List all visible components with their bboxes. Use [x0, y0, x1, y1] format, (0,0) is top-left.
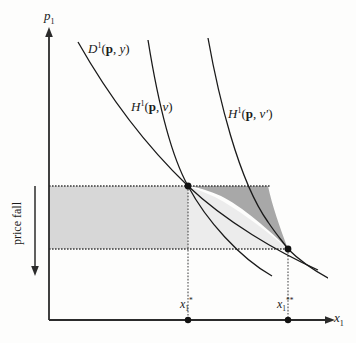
- tick-label-x-star: x1*: [180, 296, 193, 313]
- price-fall-diagram: [0, 0, 356, 343]
- curve-label-hicksian-v: H1(p, v): [131, 99, 173, 115]
- tick-x-dstar-sup: **: [286, 296, 293, 305]
- tick-x-star-sup: *: [189, 296, 193, 305]
- axis-dot-x-star: [185, 317, 191, 323]
- x-axis-label-sub: 1: [340, 319, 344, 328]
- curve-label-h1-boldp: p: [149, 99, 156, 114]
- curve-label-hicksian-v-prime: H1(p, v′): [228, 106, 272, 122]
- curve-label-h2-main: H: [228, 106, 237, 121]
- tick-x-dstar-sub: 1: [282, 304, 286, 313]
- curve-label-h1-sup: 1: [140, 99, 144, 108]
- curve-label-h2-sup: 1: [237, 106, 241, 115]
- curve-label-h2-boldp: p: [246, 106, 253, 121]
- curve-label-h1-main: H: [131, 99, 140, 114]
- tick-x-star-sub: 1: [185, 304, 189, 313]
- tick-label-x-double-star: x1**: [277, 296, 293, 313]
- curve-label-d-main: D: [88, 41, 97, 56]
- price-fall-arrow-icon: [31, 266, 39, 276]
- curve-label-d-sup: 1: [97, 41, 101, 50]
- point-equilibrium-after: [285, 246, 292, 253]
- curve-label-d-boldp: p: [106, 41, 113, 56]
- price-fall-label: price fall: [10, 189, 25, 259]
- curve-label-h1-arg: v: [163, 99, 169, 114]
- axis-dot-x-double-star: [285, 317, 291, 323]
- region-left-rectangle-overlay: [49, 186, 188, 249]
- curve-label-h2-arg: v′: [260, 106, 269, 121]
- y-axis-arrow-icon: [45, 27, 53, 37]
- curve-label-ordinary-demand: D1(p, y): [88, 41, 130, 57]
- curve-label-d-arg: y: [120, 41, 126, 56]
- x-axis-label: x1: [334, 310, 344, 328]
- y-axis-label-sub: 1: [51, 17, 55, 26]
- y-axis-label: p1: [44, 8, 55, 26]
- point-equilibrium-before: [185, 183, 192, 190]
